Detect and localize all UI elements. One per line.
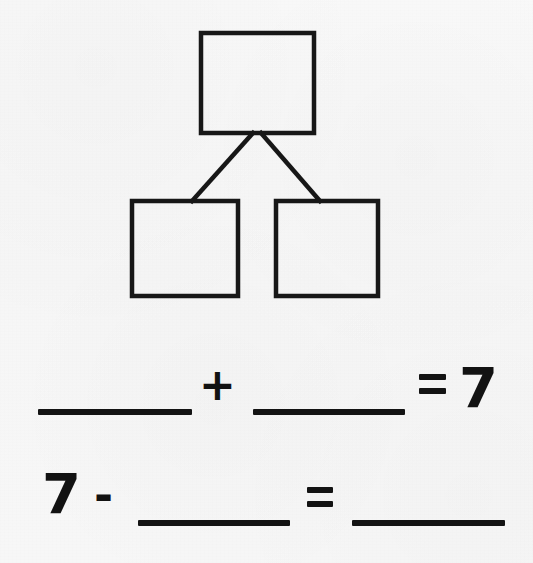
connector-left (192, 133, 253, 201)
minus-operator: - (94, 472, 113, 518)
subtrahend-blank[interactable] (138, 520, 290, 526)
sum-value: 7 (459, 360, 497, 416)
equals-bar-top (419, 374, 446, 380)
equals-sign-2 (307, 487, 333, 507)
part-box-right[interactable] (276, 201, 378, 296)
addend-blank-2[interactable] (253, 409, 405, 415)
equals-bar-bottom (419, 388, 446, 394)
number-bond-connectors (192, 133, 320, 201)
equals-bar-bottom (307, 501, 333, 507)
minuend-value: 7 (42, 466, 80, 522)
whole-box[interactable] (201, 33, 314, 133)
equals-sign-1 (419, 374, 446, 394)
connector-right (261, 133, 320, 201)
number-bond-diagram (0, 0, 533, 330)
number-bond-boxes (132, 33, 378, 296)
plus-operator: + (199, 363, 236, 407)
addend-blank-1[interactable] (38, 409, 192, 415)
equals-bar-top (307, 487, 333, 493)
part-box-left[interactable] (132, 201, 238, 296)
worksheet-page: + 7 7 - (0, 0, 533, 563)
difference-blank[interactable] (352, 520, 505, 526)
